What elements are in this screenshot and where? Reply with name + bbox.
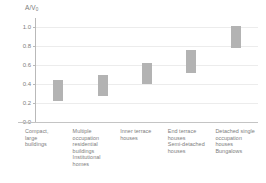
range-bar [186,50,196,73]
y-axis-tick [33,27,36,28]
y-axis-title: A/V0 [25,4,38,11]
category-label-line: Multiple [73,128,118,135]
y-axis-tick [33,65,36,66]
category-label-line: occupation [73,135,118,142]
category-label-line: buildings [73,148,118,155]
range-bar [98,75,108,96]
plot-area [36,18,258,122]
category-label-line: Inner terrace [120,128,165,135]
category-label: MultipleoccupationresidentialbuildingsIn… [73,128,118,168]
category-label-line: Bungalows [215,148,260,155]
category-label: End terracehousesSemi-detachedhouses [168,128,213,154]
x-axis-category-labels: Compact,largebuildingsMultipleoccupation… [25,128,263,180]
category-label-line: houses [168,148,213,155]
y-axis-line [35,18,36,123]
range-bar [142,63,152,84]
y-axis-tick [33,103,36,104]
category-label-line: Compact, [25,128,70,135]
range-bar [231,26,241,49]
category-label-line: homes [73,161,118,168]
gridline [36,84,258,85]
y-axis-tick-label: 0.6 [23,62,31,68]
category-label-line: residential [73,141,118,148]
category-label-line: large [25,135,70,142]
range-bar [53,80,63,101]
category-label-line: Semi-detached [168,141,213,148]
y-axis-tick-label: 1.0 [23,24,31,30]
y-axis-tick-label: 0.4 [23,81,31,87]
gridline [36,103,258,104]
y-axis-title-text: A/V [25,4,36,11]
category-label-line: houses [215,141,260,148]
category-label-line: houses [168,135,213,142]
x-axis-line [18,122,258,123]
category-label: Detached singleoccupationhousesBungalows [215,128,260,154]
category-label: Inner terracehouses [120,128,165,141]
category-label: Compact,largebuildings [25,128,70,148]
y-axis-tick-label: 0.2 [23,100,31,106]
category-label-line: houses [120,135,165,142]
y-axis-tick [33,46,36,47]
y-axis-tick-label: 0.8 [23,43,31,49]
gridline [36,27,258,28]
category-label-line: buildings [25,141,70,148]
category-label-line: occupation [215,135,260,142]
category-label-line: End terrace [168,128,213,135]
chart-container: A/V0 0.00.20.40.60.81.0 Compact,largebui… [0,0,266,183]
category-label-line: Detached single [215,128,260,135]
gridline [36,46,258,47]
y-axis-tick [33,84,36,85]
y-axis-title-subscript: 0 [36,7,39,12]
category-label-line: Institutional [73,154,118,161]
